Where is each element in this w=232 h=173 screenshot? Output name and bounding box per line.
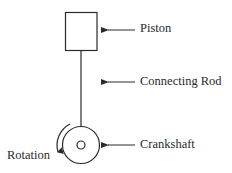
- connecting-rod-label: Connecting Rod: [140, 75, 222, 88]
- crankshaft-inner-circle: [77, 141, 85, 149]
- rotation-label: Rotation: [7, 149, 50, 162]
- crankshaft-label: Crankshaft: [140, 138, 195, 151]
- crankshaft-outer-circle: [63, 127, 100, 164]
- piston-shape: [66, 13, 98, 51]
- piston-label: Piston: [140, 22, 171, 35]
